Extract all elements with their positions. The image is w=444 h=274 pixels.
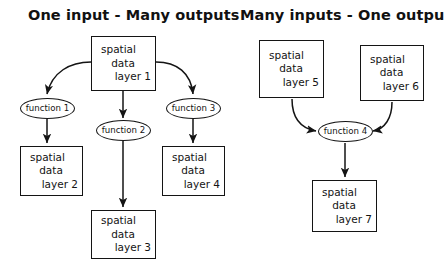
node-line-2: data xyxy=(28,164,82,178)
node-line-2: data xyxy=(267,62,323,76)
node-function-2[interactable]: function 2 xyxy=(96,120,151,141)
connector-layer xyxy=(0,0,444,274)
node-function-label: function 1 xyxy=(26,104,69,113)
panel-title-many-inputs-one-output: Many inputs - One output xyxy=(240,7,440,23)
node-spatial-data-layer-7[interactable]: spatial data layer 7 xyxy=(312,180,377,232)
node-spatial-data-layer-6[interactable]: spatial data layer 6 xyxy=(360,45,424,101)
node-function-3[interactable]: function 3 xyxy=(166,98,221,119)
node-line-3: layer 1 xyxy=(99,70,155,84)
node-line-2: data xyxy=(320,199,376,213)
edge-layer5-to-function4 xyxy=(292,99,316,131)
node-line-2: data xyxy=(170,164,224,178)
node-line-3: layer 2 xyxy=(28,178,82,192)
node-line-1: spatial xyxy=(28,151,82,165)
node-line-2: data xyxy=(99,228,155,242)
node-line-3: layer 6 xyxy=(368,80,423,94)
node-function-label: function 3 xyxy=(172,104,215,113)
node-line-3: layer 3 xyxy=(99,241,155,255)
node-spatial-data-layer-2[interactable]: spatial data layer 2 xyxy=(20,146,83,196)
node-line-1: spatial xyxy=(170,151,224,165)
node-line-2: data xyxy=(99,57,155,71)
node-line-3: layer 5 xyxy=(267,76,323,90)
node-line-1: spatial xyxy=(320,186,376,200)
edge-layer1-to-function1 xyxy=(47,62,91,94)
edge-layer1-to-function3 xyxy=(156,62,193,94)
node-spatial-data-layer-5[interactable]: spatial data layer 5 xyxy=(259,40,324,98)
panel-title-one-input-many-outputs: One input - Many outputs xyxy=(28,7,214,23)
node-function-4[interactable]: function 4 xyxy=(318,121,373,142)
node-line-1: spatial xyxy=(99,214,155,228)
node-line-3: layer 4 xyxy=(170,178,224,192)
diagram-canvas: One input - Many outputs Many inputs - O… xyxy=(0,0,444,274)
node-line-3: layer 7 xyxy=(320,213,376,227)
node-line-1: spatial xyxy=(99,43,155,57)
node-line-1: spatial xyxy=(368,53,423,67)
node-function-1[interactable]: function 1 xyxy=(20,98,75,119)
node-function-label: function 4 xyxy=(324,127,367,136)
node-spatial-data-layer-1[interactable]: spatial data layer 1 xyxy=(91,36,156,91)
node-line-1: spatial xyxy=(267,49,323,63)
node-spatial-data-layer-4[interactable]: spatial data layer 4 xyxy=(162,146,225,196)
node-line-2: data xyxy=(368,66,423,80)
node-function-label: function 2 xyxy=(102,126,145,135)
edge-layer6-to-function4 xyxy=(373,102,392,131)
node-spatial-data-layer-3[interactable]: spatial data layer 3 xyxy=(91,210,156,259)
